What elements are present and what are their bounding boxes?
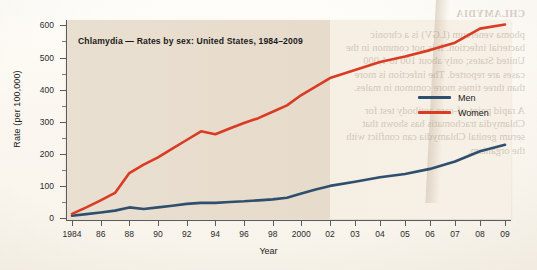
y-tick-label-200: 200 [24,150,54,158]
y-tick-400 [60,90,66,91]
x-tick-98 [273,221,274,226]
legend-label-women: Women [458,108,489,118]
x-tick-label-04: 04 [375,229,384,239]
x-tick-label-09: 09 [500,229,509,239]
y-tick-0 [60,218,66,219]
legend: Men Women [418,90,489,120]
y-tick-minor-550 [62,41,66,42]
x-axis-title: Year [0,246,537,256]
x-tick-02 [330,221,331,226]
y-tick-200 [60,154,66,155]
scanned-page: CHLAMYDIA phoma venereum (LGV) is a chro… [0,0,537,270]
x-tick-90 [158,221,159,226]
y-tick-100 [60,186,66,187]
x-tick-03 [355,221,356,226]
y-tick-300 [60,122,66,123]
x-tick-label-92: 92 [182,229,191,239]
y-axis-line [66,20,67,221]
x-tick-label-88: 88 [125,229,134,239]
x-tick-88 [129,221,130,226]
y-tick-label-500: 500 [24,54,54,62]
x-tick-92 [187,221,188,226]
y-tick-label-300: 300 [24,118,54,126]
y-tick-label-600: 600 [24,21,54,29]
x-axis-line [66,220,511,221]
x-tick-label-86: 86 [96,229,105,239]
x-tick-94 [215,221,216,226]
legend-item-men: Men [418,90,489,105]
x-tick-09 [505,221,506,226]
x-tick-08 [480,221,481,226]
y-tick-minor-150 [62,170,66,171]
x-tick-05 [405,221,406,226]
x-tick-label-08: 08 [475,229,484,239]
y-tick-minor-450 [62,74,66,75]
y-tick-minor-350 [62,106,66,107]
y-tick-600 [60,25,66,26]
x-tick-96 [244,221,245,226]
x-tick-label-98: 98 [268,229,277,239]
x-tick-07 [455,221,456,226]
x-tick-label-06: 06 [425,229,434,239]
x-tick-label-03: 03 [350,229,359,239]
x-tick-label-94: 94 [211,229,220,239]
x-tick-label-96: 96 [239,229,248,239]
ghost-heading: CHLAMYDIA [344,8,525,19]
y-tick-label-100: 100 [24,182,54,190]
legend-label-men: Men [458,93,476,103]
x-tick-1984 [72,221,73,226]
x-tick-06 [430,221,431,226]
panel-shade-early-years [66,20,330,219]
x-tick-86 [101,221,102,226]
x-tick-label-07: 07 [450,229,459,239]
x-tick-label-1984: 1984 [63,229,82,239]
chart-title: Chlamydia — Rates by sex: United States,… [78,36,303,46]
y-tick-label-400: 400 [24,86,54,94]
y-tick-500 [60,58,66,59]
legend-swatch-men [418,96,451,99]
x-tick-04 [380,221,381,226]
x-tick-label-02: 02 [325,229,334,239]
legend-item-women: Women [418,105,489,120]
x-tick-2000 [301,221,302,226]
y-tick-minor-250 [62,138,66,139]
y-axis-tick-labels: 0100200300400500600 [20,0,54,270]
legend-swatch-women [418,111,451,114]
y-axis-title: Rate (per 100,000) [12,44,22,174]
y-tick-minor-50 [62,202,66,203]
y-tick-label-0: 0 [24,214,54,222]
x-tick-label-2000: 2000 [292,229,311,239]
x-tick-label-90: 90 [153,229,162,239]
x-tick-label-05: 05 [400,229,409,239]
